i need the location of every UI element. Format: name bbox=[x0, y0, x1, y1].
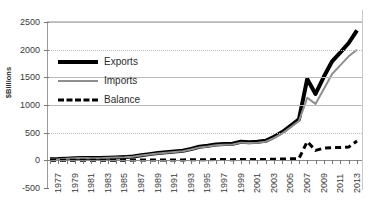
legend-swatch-imports-icon bbox=[58, 75, 98, 87]
legend-item-imports: Imports bbox=[58, 71, 140, 90]
x-tick-label: 2001 bbox=[252, 173, 262, 193]
legend-swatch-exports-icon bbox=[58, 56, 98, 68]
legend-item-exports: Exports bbox=[58, 52, 140, 71]
x-tick-label: 2013 bbox=[352, 173, 362, 193]
x-tick-label: 2009 bbox=[319, 173, 329, 193]
x-axis-tick-labels: 1977197919811983198519871989199119931995… bbox=[0, 0, 375, 218]
x-tick-label: 2011 bbox=[335, 174, 345, 193]
x-tick-label: 1977 bbox=[53, 173, 63, 193]
x-tick-label: 1985 bbox=[119, 173, 129, 193]
x-tick-label: 1983 bbox=[103, 173, 113, 193]
x-tick-label: 1995 bbox=[202, 173, 212, 193]
x-tick-label: 1987 bbox=[136, 173, 146, 193]
legend-swatch-balance-icon bbox=[58, 94, 98, 106]
chart-legend: Exports Imports Balance bbox=[58, 52, 140, 109]
x-tick-label: 2003 bbox=[269, 173, 279, 193]
legend-item-balance: Balance bbox=[58, 90, 140, 109]
x-tick-label: 2007 bbox=[302, 173, 312, 193]
legend-label-imports: Imports bbox=[104, 75, 137, 86]
x-tick-label: 1993 bbox=[186, 173, 196, 193]
chart-container: $Billions 25002000150010005000-500 19771… bbox=[0, 0, 375, 218]
x-tick-label: 1997 bbox=[219, 173, 229, 193]
legend-label-balance: Balance bbox=[104, 94, 140, 105]
x-tick-label: 1999 bbox=[236, 173, 246, 193]
legend-label-exports: Exports bbox=[104, 56, 138, 67]
x-tick-label: 1979 bbox=[70, 173, 80, 193]
x-tick-label: 1981 bbox=[86, 173, 96, 193]
x-tick-label: 2005 bbox=[285, 173, 295, 193]
x-tick-label: 1991 bbox=[169, 173, 179, 193]
x-tick-label: 1989 bbox=[153, 173, 163, 193]
